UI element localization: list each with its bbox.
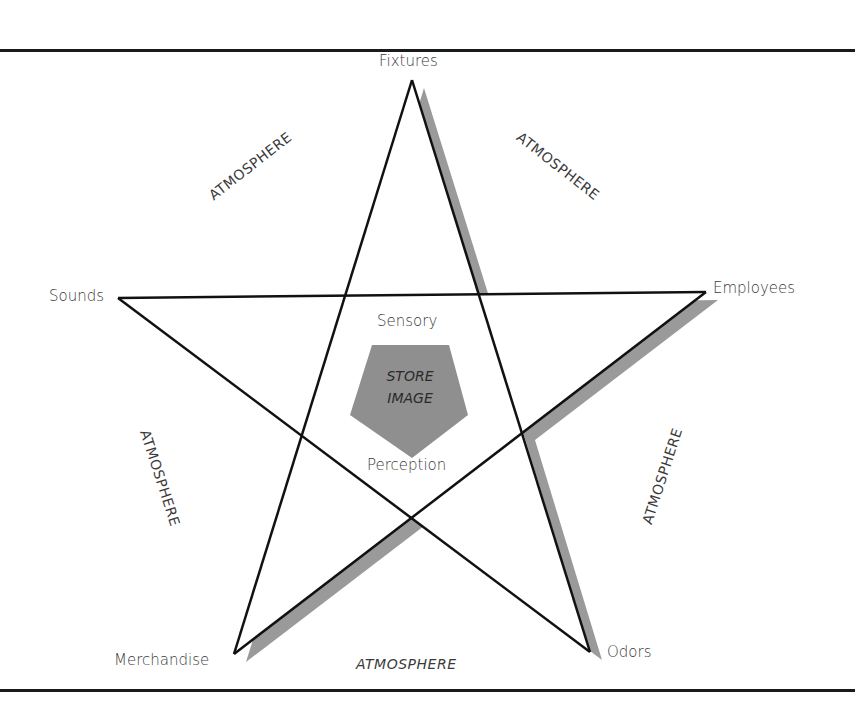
sensory-label: Sensory	[377, 312, 437, 330]
perception-label: Perception	[367, 456, 446, 474]
vertex-label-fixtures: Fixtures	[379, 52, 438, 70]
star-diagram	[0, 0, 855, 712]
store-image-line1: STORE	[360, 365, 460, 387]
vertex-label-odors: Odors	[607, 643, 652, 661]
vertex-label-sounds: Sounds	[49, 287, 104, 305]
store-image-label: STORE IMAGE	[360, 365, 460, 409]
store-image-line2: IMAGE	[360, 387, 460, 409]
vertex-label-merchandise: Merchandise	[114, 651, 209, 669]
vertex-label-employees: Employees	[713, 279, 795, 297]
atmosphere-label-bottom: ATMOSPHERE	[356, 656, 456, 672]
